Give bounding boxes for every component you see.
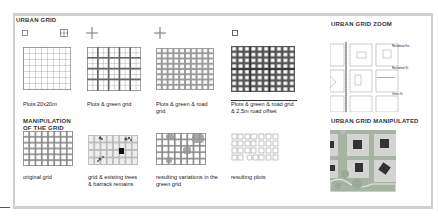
- square-icon: [232, 30, 238, 36]
- grid-plots-road-offset: [231, 46, 295, 92]
- caption-plots-green-road: Plots & green & road grid: [156, 101, 218, 115]
- margin-tick: [0, 207, 10, 208]
- grid-green-variations: [156, 133, 206, 165]
- grid-plots-green: [87, 47, 141, 91]
- caption-resulting-plots: resulting plots: [231, 174, 293, 181]
- caption-trees-barrack: grid & existing trees & barrack remains: [88, 174, 140, 188]
- caption-green-variations: resulting variations in the green grid: [156, 174, 218, 188]
- urban-grid-title: URBAN GRID: [16, 17, 56, 24]
- grid-original: [23, 131, 73, 166]
- plus-icon: [86, 27, 98, 39]
- caption-plots-green: Plots & green grid: [87, 101, 149, 108]
- caption-plots-road-offset: Plots & green & road grid & 2.5m road of…: [231, 100, 297, 115]
- zoom-plot-label: Residential Block: [376, 76, 396, 79]
- grid-plots-20x20: [23, 47, 71, 90]
- manipulation-title: MANIPULATION OF THE GRID: [23, 118, 73, 132]
- grid-plots-green-road: [156, 48, 214, 90]
- grid-trees-barrack: [88, 135, 138, 165]
- zoom-label-residential-st: Residential St.: [392, 67, 409, 70]
- grid-resulting-plots: [231, 133, 283, 165]
- plus-icon: [154, 27, 166, 39]
- zoom-label-green-st: Green St.: [392, 93, 403, 96]
- caption-plots-20x20: Plots 20x20m: [23, 101, 83, 108]
- urban-grid-zoom-title: URBAN GRID ZOOM: [331, 21, 392, 28]
- quad-square-icon: [60, 29, 68, 37]
- urban-grid-manipulated-map: [330, 130, 396, 192]
- caption-original-grid: original grid: [23, 174, 83, 181]
- square-icon: [22, 30, 28, 36]
- urban-grid-manipulated-title: URBAN GRID MANIPULATED: [331, 118, 419, 125]
- zoom-label-residential-ext: Residential Ext.: [392, 45, 410, 48]
